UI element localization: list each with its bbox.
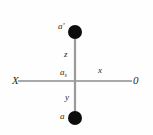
node-dot-a	[68, 111, 82, 125]
label-distance-y: y	[65, 93, 69, 102]
label-a-prime: a'	[58, 22, 64, 31]
label-axis-right-origin: 0	[133, 75, 139, 86]
geometry-diagram: a' z as x X 0 y a	[0, 0, 153, 135]
label-center-point-base: a	[60, 67, 65, 77]
node-dot-a-prime	[68, 25, 82, 39]
label-center-point-as: as	[60, 68, 67, 77]
label-axis-left-X: X	[12, 75, 19, 86]
label-center-point-sub: s	[65, 72, 67, 78]
label-a: a	[60, 112, 65, 121]
label-distance-z: z	[64, 50, 68, 59]
diagram-canvas	[0, 0, 153, 135]
label-distance-x: x	[98, 66, 102, 75]
